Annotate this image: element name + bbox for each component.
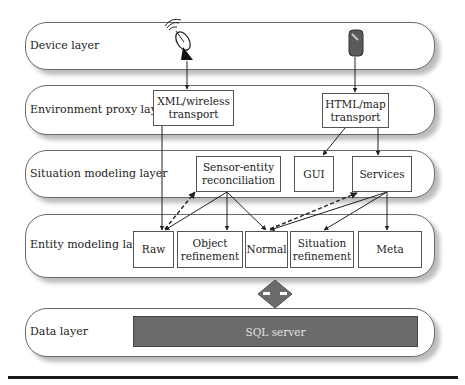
object-refinement-line1: Object (193, 237, 228, 250)
sensor-entity-reconciliation-line1: Sensor-entity (203, 161, 274, 174)
situation-modeling-layer-label: Situation modeling layer (30, 167, 168, 180)
environment-proxy-layer-label: Environment proxy layer (30, 103, 169, 116)
situation-refinement-line2: refinement (293, 250, 351, 263)
xml-wireless-transport-box: XML/wireless transport (153, 90, 234, 126)
services-label: Services (359, 168, 404, 181)
normal-label: Normal (246, 243, 286, 256)
gui-label: GUI (303, 168, 324, 181)
normal-box: Normal (245, 231, 288, 268)
sensor-entity-reconciliation-box: Sensor-entity reconciliation (196, 156, 281, 192)
bidirectional-arrow-icon (258, 280, 292, 308)
device-layer: Device layer (25, 22, 435, 70)
object-refinement-line2: refinement (181, 250, 239, 263)
bottom-rule (8, 376, 458, 379)
meta-box: Meta (358, 231, 422, 268)
object-refinement-box: Object refinement (177, 231, 243, 268)
gui-box: GUI (294, 156, 334, 192)
xml-wireless-transport-line2: transport (169, 108, 219, 121)
xml-wireless-transport-line1: XML/wireless (157, 95, 230, 108)
data-layer-label: Data layer (30, 325, 88, 338)
html-map-transport-line1: HTML/map (325, 98, 385, 111)
situation-refinement-line1: Situation (298, 237, 346, 250)
sql-server-box: SQL server (133, 316, 418, 347)
services-box: Services (352, 156, 412, 192)
html-map-transport-line2: transport (331, 111, 381, 124)
situation-refinement-box: Situation refinement (290, 231, 354, 268)
sql-server-label: SQL server (246, 326, 306, 338)
html-map-transport-box: HTML/map transport (322, 93, 389, 128)
sensor-entity-reconciliation-line2: reconciliation (202, 174, 275, 187)
raw-label: Raw (142, 243, 165, 256)
meta-label: Meta (376, 243, 403, 256)
raw-box: Raw (133, 231, 174, 268)
device-layer-label: Device layer (30, 39, 99, 52)
